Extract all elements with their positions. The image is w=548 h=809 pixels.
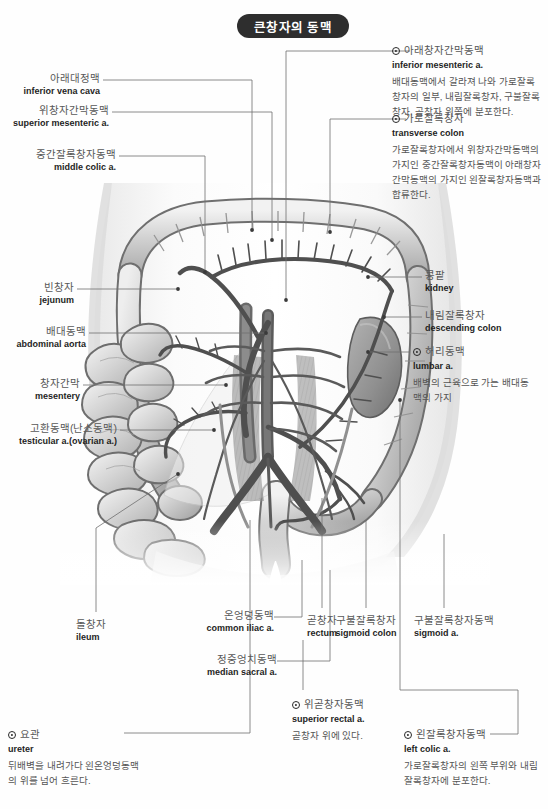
label-ko: 위창자간막동맥 (0, 104, 109, 117)
page-title: 큰창자의 동맥 (237, 14, 349, 38)
label-inferior-vena-cava: 아래대정맥 inferior vena cava (0, 72, 100, 98)
note-en: left colic a. (404, 743, 546, 756)
label-ko: 온엉덩동맥 (175, 609, 274, 622)
note-inferior-mesenteric-a: 아래창자간막동맥 inferior mesenteric a. 배대동맥에서 갈… (392, 43, 542, 120)
label-en: testicular a.(ovarian a.) (0, 436, 117, 448)
label-superior-mesenteric-a: 위창자간막동맥 superior mesenteric a. (0, 104, 109, 130)
label-ileum: 돌창자 ileum (76, 618, 106, 644)
note-ko: 위곧창자동맥 (304, 697, 364, 712)
label-testicular-ovarian-a: 고환동맥(난소동맥) testicular a.(ovarian a.) (0, 422, 117, 448)
label-ko: 내림잘록창자 (425, 309, 502, 322)
label-descending-colon: 내림잘록창자 descending colon (425, 309, 502, 335)
label-ko: 콩팥 (425, 269, 454, 282)
note-en: ureter (8, 743, 148, 756)
label-en: common iliac a. (175, 623, 274, 635)
note-en: superior rectal a. (292, 713, 432, 726)
note-en: inferior mesenteric a. (392, 59, 542, 72)
note-en: transverse colon (392, 127, 544, 140)
label-ko: 배대동맥 (0, 325, 86, 338)
note-lumbar-a: 허리동맥 lumbar a. 배벽의 근육으로 가는 배대동맥의 가지 (413, 344, 531, 406)
label-en: median sacral a. (172, 667, 277, 679)
label-en: inferior vena cava (0, 86, 100, 98)
label-ko: 구불잘록창자동맥 (414, 614, 494, 627)
label-en: kidney (425, 283, 454, 295)
label-en: jejunum (0, 295, 74, 307)
label-sigmoid-colon: 구불잘록창자 sigmoid colon (326, 614, 406, 640)
note-body: 배벽의 근육으로 가는 배대동맥의 가지 (413, 376, 531, 406)
bullet-marker-icon (404, 731, 412, 739)
label-en: abdominal aorta (0, 339, 86, 351)
label-en: mesentery (0, 391, 80, 403)
label-mesentery: 창자간막 mesentery (0, 377, 80, 403)
note-transverse-colon: 가로잘록창자 transverse colon 가로잘록창자에서 위창자간막동맥… (392, 111, 544, 203)
note-ko: 가로잘록창자 (404, 111, 464, 126)
page-title-text: 큰창자의 동맥 (254, 17, 333, 36)
note-left-colic-a: 왼잘록창자동맥 left colic a. 가로잘록창자의 왼쪽 부위와 내림잘… (404, 727, 546, 789)
note-ko: 요관 (20, 727, 40, 742)
label-median-sacral-a: 정중엉치동맥 median sacral a. (172, 653, 277, 679)
label-ko: 빈창자 (0, 281, 74, 294)
note-ureter: 요관 ureter 뒤배벽을 내려가다 왼온엉덩동맥의 위를 넘어 흐른다. (8, 727, 148, 789)
label-en: sigmoid a. (414, 628, 494, 640)
note-ko: 허리동맥 (425, 344, 465, 359)
label-en: ileum (76, 632, 106, 644)
label-ko: 구불잘록창자 (326, 614, 406, 627)
label-kidney: 콩팥 kidney (425, 269, 454, 295)
note-en: lumbar a. (413, 360, 531, 373)
label-middle-colic-a: 중간잘록창자동맥 middle colic a. (0, 148, 116, 174)
label-ko: 아래대정맥 (0, 72, 100, 85)
anatomy-page: 큰창자의 동맥 (0, 0, 548, 809)
note-ko: 아래창자간막동맥 (404, 43, 484, 58)
bullet-marker-icon (292, 701, 300, 709)
note-body: 뒤배벽을 내려가다 왼온엉덩동맥의 위를 넘어 흐른다. (8, 759, 148, 789)
note-ko: 왼잘록창자동맥 (416, 727, 486, 742)
note-body: 가로잘록창자의 왼쪽 부위와 내림잘록창자에 분포한다. (404, 759, 546, 789)
label-jejunum: 빈창자 jejunum (0, 281, 74, 307)
label-en: sigmoid colon (326, 628, 406, 640)
bullet-marker-icon (392, 115, 400, 123)
label-en: descending colon (425, 323, 502, 335)
label-ko: 돌창자 (76, 618, 106, 631)
label-abdominal-aorta: 배대동맥 abdominal aorta (0, 325, 86, 351)
label-sigmoid-a: 구불잘록창자동맥 sigmoid a. (414, 614, 494, 640)
label-ko: 정중엉치동맥 (172, 653, 277, 666)
label-common-iliac-a: 온엉덩동맥 common iliac a. (175, 609, 274, 635)
label-ko: 고환동맥(난소동맥) (0, 422, 117, 435)
label-ko: 중간잘록창자동맥 (0, 148, 116, 161)
bullet-marker-icon (392, 47, 400, 55)
label-en: middle colic a. (0, 162, 116, 174)
bullet-marker-icon (8, 731, 16, 739)
note-body: 가로잘록창자에서 위창자간막동맥의 가지인 중간잘록창자동맥이 아래창자간막동맥… (392, 143, 544, 202)
label-en: superior mesenteric a. (0, 118, 109, 130)
label-ko: 창자간막 (0, 377, 80, 390)
bullet-marker-icon (413, 348, 421, 356)
